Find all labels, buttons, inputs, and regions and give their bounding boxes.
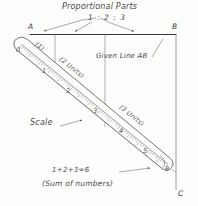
scale-tick-5: 5 xyxy=(143,148,147,155)
sum-equation: 1+2+3=6 xyxy=(52,167,90,174)
scale-tick-1: 1 xyxy=(42,68,46,75)
sum-leader xyxy=(119,168,150,172)
scale-label: Scale xyxy=(30,119,53,127)
scale-tick-2: 2 xyxy=(66,88,70,95)
sum-caption: (Sum of numbers) xyxy=(42,180,113,188)
figure-title: Proportional Parts xyxy=(62,3,137,11)
scale-zero-label: 0 xyxy=(16,47,20,54)
point-label-b: B xyxy=(172,23,177,31)
point-label-c: C xyxy=(178,190,183,198)
point-label-a: A xyxy=(28,23,33,31)
scale-tick-6: 6 xyxy=(165,166,169,173)
given-line-leader xyxy=(152,39,163,57)
scale-leader xyxy=(60,120,82,126)
given-line-label: Given Line AB xyxy=(96,53,147,60)
scale-tick-4: 4 xyxy=(119,128,123,135)
ratio-label: 1 : 2 : 3 xyxy=(88,14,126,22)
scale-tick-3: 3 xyxy=(93,108,97,115)
proportional-parts-figure: Proportional Parts 1 : 2 : 3 A B C Given… xyxy=(0,0,198,206)
